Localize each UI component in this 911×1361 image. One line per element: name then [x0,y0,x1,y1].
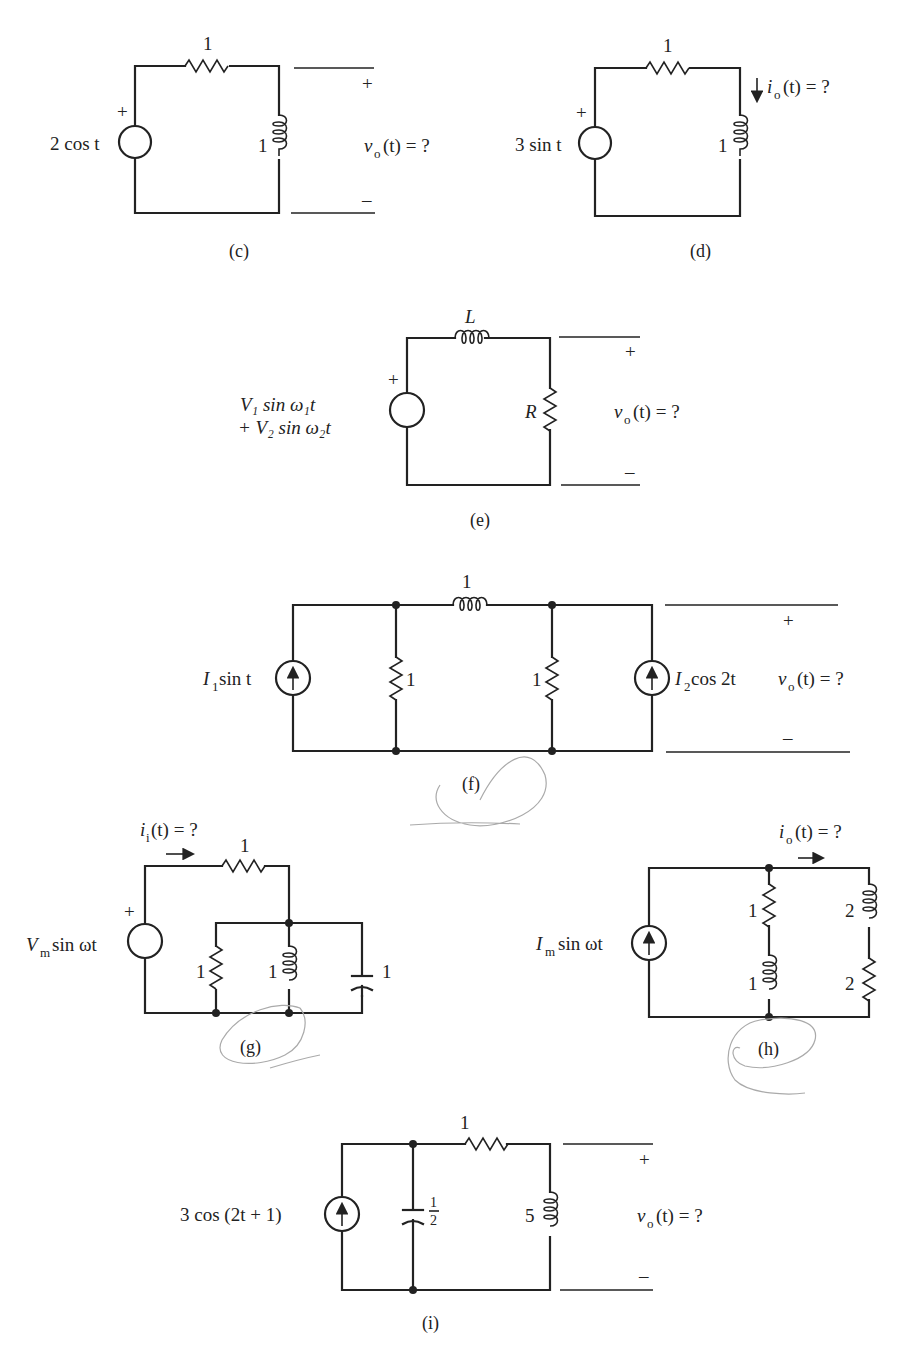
output-rest: (t) = ? [783,76,830,98]
resistor-icon [544,388,556,431]
inductor-icon [273,115,287,156]
output-plus: + [783,610,794,631]
resistor-icon [646,62,689,74]
inductor-value: 1 [718,135,728,156]
circuit-i: 3 cos (2t + 1) 1 2 1 5 + – v o (t) = ? (… [180,1112,703,1334]
output-sub: o [774,87,781,102]
branch1-resistor-value: 1 [748,900,758,921]
voltage-source-icon [128,924,162,958]
resistor-icon [390,657,402,700]
circuit-g: + V m sin ωt 1 1 1 1 i i (t) = ? (g) [26,819,392,1068]
resistor-icon [185,60,228,72]
output-rest: (t) = ? [633,401,680,423]
inductor-value: 1 [268,961,278,982]
source-sub: m [545,944,555,959]
source-var: I [535,933,544,954]
output-sub: o [374,146,381,161]
resistor-value: 1 [460,1112,470,1133]
source-polarity-plus: + [117,101,128,122]
output-rest: (t) = ? [383,135,430,157]
output-rest: (t) = ? [151,819,198,841]
resistor-icon [546,657,558,700]
caption-f: (f) [462,774,480,795]
inductor-icon [734,115,748,156]
capacitor-value-den: 2 [430,1213,437,1228]
output-var: v [637,1205,646,1226]
capacitor-icon [352,976,372,996]
inductor-value: 1 [462,571,472,592]
source-polarity-plus: + [388,369,399,390]
output-rest: (t) = ? [795,821,842,843]
output-sub: i [146,830,150,845]
inductor-icon [455,331,489,344]
resistor-value: 1 [663,35,673,56]
voltage-source-icon [390,393,424,427]
output-var: v [364,135,373,156]
resistor-icon [222,860,265,872]
output-var: v [778,668,787,689]
inductor-value: 1 [258,135,268,156]
inductor-value: 5 [525,1205,535,1226]
inductor-icon [453,598,487,611]
source-right-rest: cos 2t [691,668,737,689]
output-rest: (t) = ? [656,1205,703,1227]
resistor-value: R [524,401,537,422]
source-polarity-plus: + [576,102,587,123]
source-right-sub: 2 [684,679,691,694]
source-label-line1: V₁ sin ω₁t [240,394,316,415]
capacitor-icon [403,1210,423,1224]
source-label: 2 cos t [50,133,100,154]
source-label: 3 cos (2t + 1) [180,1204,281,1226]
resistor-icon [465,1138,508,1150]
inductor-icon [283,946,297,980]
inductor-icon [863,884,877,918]
circuit-h: I m sin ωt 1 1 2 2 i o (t) = ? (h) [535,821,877,1094]
source-left-var: I [202,668,211,689]
branch2-resistor-value: 2 [845,973,855,994]
circuit-d: + 3 sin t 1 1 i o (t) = ? (d) [515,35,830,262]
output-minus: – [638,1265,649,1286]
resistor-shunt-value: 1 [196,961,206,982]
output-minus: – [624,461,635,482]
circuit-e: + V₁ sin ω₁t + V₂ sin ω₂t L R + – v o (t… [238,306,680,531]
capacitor-value-num: 1 [430,1195,437,1210]
output-minus: – [361,189,372,210]
source-label: 3 sin t [515,134,562,155]
resistor-value: 1 [203,33,213,54]
voltage-source-icon [579,127,611,159]
resistor-icon [210,946,222,989]
circuit-f: I 1 sin t I 2 cos 2t 1 1 1 + – v o (t) =… [202,571,850,826]
branch2-inductor-value: 2 [845,900,855,921]
caption-d: (d) [690,241,711,262]
caption-i: (i) [422,1313,439,1334]
output-sub: o [624,412,631,427]
output-plus: + [625,341,636,362]
resistor-series-value: 1 [240,835,250,856]
output-var: v [614,401,623,422]
caption-c: (c) [229,241,249,262]
source-rest: sin ωt [52,934,97,955]
source-label-line2: + V₂ sin ω₂t [238,417,331,438]
output-minus: – [782,727,793,748]
resistor-left-value: 1 [406,669,416,690]
output-sub: o [788,679,795,694]
circuit-c: + 2 cos t 1 1 + – v o (t) = ? (c) [50,33,430,262]
source-var: V [26,934,40,955]
branch1-inductor-value: 1 [748,973,758,994]
capacitor-value: 1 [382,961,392,982]
resistor-icon [863,958,875,1001]
resistor-right-value: 1 [532,669,542,690]
source-left-sub: 1 [212,679,219,694]
output-sub: o [647,1216,654,1231]
output-rest: (t) = ? [797,668,844,690]
source-sub: m [40,945,50,960]
caption-h: (h) [758,1039,779,1060]
pen-annotation [220,1005,320,1068]
output-var: i [140,819,145,840]
voltage-source-icon [119,126,151,158]
output-var: i [767,76,772,97]
output-plus: + [639,1149,650,1170]
source-right-var: I [674,668,683,689]
circuit-figure: + 2 cos t 1 1 + – v o (t) = ? (c) + 3 si… [0,0,911,1361]
output-var: i [779,821,784,842]
